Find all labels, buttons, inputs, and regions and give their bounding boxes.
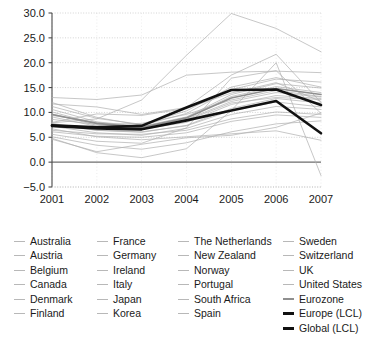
x-tick-label: 2001 — [40, 193, 64, 205]
legend-item-label: Portugal — [194, 279, 233, 290]
legend-swatch-icon — [14, 313, 25, 314]
legend-item-label: France — [113, 236, 146, 247]
legend-item[interactable]: New Zealand — [178, 249, 272, 264]
x-tick-label: 2007 — [309, 193, 333, 205]
legend-swatch-icon — [97, 255, 108, 256]
line-chart: 30.025.020.015.010.05.00.0−5.0 200120022… — [0, 0, 375, 228]
legend-column: SwedenSwitzerlandUKUnited StatesEurozone… — [283, 234, 362, 336]
legend-item[interactable]: France — [97, 234, 156, 249]
chart-svg: 30.025.020.015.010.05.00.0−5.0 200120022… — [0, 0, 375, 228]
legend-item-label: Sweden — [299, 236, 337, 247]
legend-swatch-icon — [283, 241, 294, 242]
legend-item-label: Australia — [30, 236, 71, 247]
legend-item-label: Ireland — [113, 265, 145, 276]
legend-item[interactable]: Portugal — [178, 278, 272, 293]
legend-swatch-icon — [97, 313, 108, 314]
legend-item[interactable]: The Netherlands — [178, 234, 272, 249]
x-tick-label: 2002 — [85, 193, 109, 205]
legend-item-label: Finland — [30, 308, 64, 319]
y-tick-label: 20.0 — [24, 57, 45, 69]
legend-swatch-icon — [14, 241, 25, 242]
legend-item-label: Germany — [113, 250, 156, 261]
legend-item[interactable]: United States — [283, 278, 362, 293]
legend-item-label: Switzerland — [299, 250, 353, 261]
legend-item[interactable]: Austria — [14, 249, 73, 264]
legend-swatch-icon — [283, 284, 294, 285]
legend-swatch-icon — [283, 270, 294, 271]
legend-item-label: Europe (LCL) — [299, 308, 362, 319]
legend-item-label: Canada — [30, 279, 67, 290]
legend-item-label: Austria — [30, 250, 63, 261]
legend-item-label: United States — [299, 279, 362, 290]
x-tick-label: 2006 — [264, 193, 288, 205]
legend-item-label: Norway — [194, 265, 230, 276]
legend-item[interactable]: Italy — [97, 278, 156, 293]
legend-swatch-icon — [283, 298, 294, 300]
legend-item[interactable]: UK — [283, 263, 362, 278]
chart-screenshot: 30.025.020.015.010.05.00.0−5.0 200120022… — [0, 0, 375, 339]
y-tick-label: 5.0 — [30, 131, 45, 143]
chart-legend: AustraliaAustriaBelgiumCanadaDenmarkFinl… — [0, 234, 375, 339]
x-tick-label: 2003 — [129, 193, 153, 205]
legend-item-label: New Zealand — [194, 250, 256, 261]
y-tick-labels: 30.025.020.015.010.05.00.0−5.0 — [23, 7, 45, 193]
legend-swatch-icon — [283, 312, 294, 315]
legend-item[interactable]: Ireland — [97, 263, 156, 278]
legend-swatch-icon — [97, 299, 108, 300]
legend-column: The NetherlandsNew ZealandNorwayPortugal… — [178, 234, 272, 321]
legend-item-label: The Netherlands — [194, 236, 272, 247]
legend-item-label: South Africa — [194, 294, 251, 305]
legend-item[interactable]: Spain — [178, 307, 272, 322]
y-tick-label: 25.0 — [24, 32, 45, 44]
legend-item-label: Global (LCL) — [299, 323, 359, 334]
legend-swatch-icon — [97, 270, 108, 271]
legend-swatch-icon — [178, 284, 189, 285]
legend-item[interactable]: South Africa — [178, 292, 272, 307]
legend-item-label: Korea — [113, 308, 141, 319]
y-tick-label: 0.0 — [30, 156, 45, 168]
legend-item[interactable]: Belgium — [14, 263, 73, 278]
legend-item[interactable]: Korea — [97, 307, 156, 322]
legend-item[interactable]: Europe (LCL) — [283, 307, 362, 322]
legend-swatch-icon — [283, 327, 294, 330]
legend-item[interactable]: Sweden — [283, 234, 362, 249]
legend-swatch-icon — [283, 255, 294, 256]
legend-item[interactable]: Japan — [97, 292, 156, 307]
legend-item[interactable]: Denmark — [14, 292, 73, 307]
y-axis — [49, 13, 53, 187]
legend-item-label: Belgium — [30, 265, 68, 276]
legend-swatch-icon — [14, 270, 25, 271]
legend-item-label: Eurozone — [299, 294, 344, 305]
legend-swatch-icon — [14, 255, 25, 256]
y-tick-label: −5.0 — [23, 181, 45, 193]
legend-item[interactable]: Australia — [14, 234, 73, 249]
legend-swatch-icon — [178, 255, 189, 256]
y-tick-label: 15.0 — [24, 82, 45, 94]
legend-swatch-icon — [97, 284, 108, 285]
legend-item-label: Spain — [194, 308, 221, 319]
y-tick-label: 10.0 — [24, 106, 45, 118]
legend-item[interactable]: Eurozone — [283, 292, 362, 307]
y-tick-label: 30.0 — [24, 7, 45, 19]
x-tick-labels: 2001200220032004200520062007 — [40, 193, 333, 205]
legend-swatch-icon — [97, 241, 108, 242]
legend-column: FranceGermanyIrelandItalyJapanKorea — [97, 234, 156, 321]
legend-swatch-icon — [178, 270, 189, 271]
legend-item[interactable]: Canada — [14, 278, 73, 293]
x-tick-label: 2005 — [219, 193, 243, 205]
legend-item-label: Denmark — [30, 294, 73, 305]
legend-item[interactable]: Germany — [97, 249, 156, 264]
x-tick-label: 2004 — [174, 193, 198, 205]
legend-item-label: Italy — [113, 279, 132, 290]
legend-item[interactable]: Global (LCL) — [283, 321, 362, 336]
legend-swatch-icon — [14, 284, 25, 285]
legend-item[interactable]: Switzerland — [283, 249, 362, 264]
legend-swatch-icon — [178, 313, 189, 314]
legend-item[interactable]: Finland — [14, 307, 73, 322]
legend-item[interactable]: Norway — [178, 263, 272, 278]
legend-swatch-icon — [14, 299, 25, 300]
legend-swatch-icon — [178, 241, 189, 242]
grid-lines — [52, 13, 321, 187]
legend-item-label: UK — [299, 265, 314, 276]
legend-item-label: Japan — [113, 294, 142, 305]
